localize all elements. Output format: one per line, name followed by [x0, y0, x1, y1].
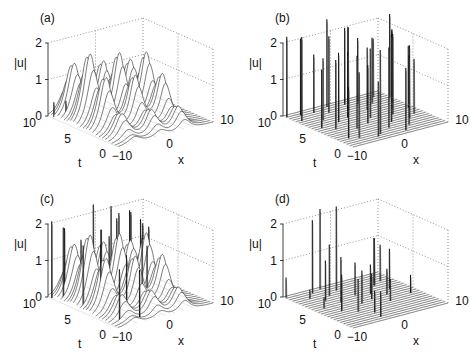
t-tick-label: 10	[23, 116, 37, 130]
t-tick-label: 5	[299, 132, 306, 146]
surface	[48, 52, 213, 147]
panel-label: (b)	[275, 11, 290, 25]
z-axis-label: |u|	[14, 56, 27, 70]
t-axis-label: t	[78, 156, 82, 170]
plot-a: 0121050−10010(a)|u|tx	[0, 0, 235, 181]
t-tick-label: 5	[299, 313, 306, 327]
z-tick-label: 2	[35, 36, 42, 50]
x-tick-label: 10	[220, 294, 234, 308]
panel-b: 0121050−10010(b)|u|tx	[235, 0, 470, 181]
z-tick-label: 0	[270, 109, 277, 123]
x-tick-label: 0	[401, 318, 408, 332]
x-tick-label: −10	[347, 330, 368, 344]
t-tick-label: 5	[64, 313, 71, 327]
t-tick-label: 0	[334, 147, 341, 161]
x-tick-label: −10	[112, 149, 133, 163]
z-tick-label: 0	[35, 109, 42, 123]
x-tick-label: 10	[455, 294, 469, 308]
x-axis-label: x	[413, 153, 419, 167]
panel-label: (d)	[275, 192, 290, 206]
plot-c: 0121050−10010(c)|u|tx	[0, 181, 235, 362]
t-tick-label: 5	[64, 132, 71, 146]
x-tick-label: 0	[166, 318, 173, 332]
x-tick-label: 10	[220, 113, 234, 127]
x-tick-label: −10	[112, 330, 133, 344]
z-tick-label: 1	[35, 73, 42, 87]
t-tick-label: 10	[23, 297, 37, 311]
t-tick-label: 10	[258, 297, 272, 311]
surface	[48, 205, 213, 328]
t-axis-label: t	[78, 337, 82, 351]
grid	[283, 199, 448, 303]
x-axis-label: x	[178, 153, 184, 167]
x-tick-label: 0	[166, 137, 173, 151]
surface	[283, 206, 448, 328]
panel-d: 0121050−10010(d)|u|tx	[235, 181, 470, 362]
z-axis-label: |u|	[14, 237, 27, 251]
z-tick-label: 1	[270, 254, 277, 268]
t-tick-label: 10	[258, 116, 272, 130]
t-tick-label: 0	[99, 328, 106, 342]
z-tick-label: 2	[270, 36, 277, 50]
t-tick-label: 0	[99, 147, 106, 161]
z-tick-label: 2	[35, 217, 42, 231]
z-tick-label: 1	[35, 254, 42, 268]
z-tick-label: 2	[270, 217, 277, 231]
panel-a: 0121050−10010(a)|u|tx	[0, 0, 235, 181]
x-axis-label: x	[178, 334, 184, 348]
z-axis-label: |u|	[249, 56, 262, 70]
panel-c: 0121050−10010(c)|u|tx	[0, 181, 235, 362]
x-tick-label: 0	[401, 137, 408, 151]
plot-b: 0121050−10010(b)|u|tx	[235, 0, 470, 181]
z-axis-label: |u|	[249, 237, 262, 251]
panel-label: (c)	[40, 192, 54, 206]
panel-label: (a)	[40, 11, 55, 25]
x-tick-label: −10	[347, 149, 368, 163]
x-tick-label: 10	[455, 113, 469, 127]
x-axis-label: x	[413, 334, 419, 348]
plot-d: 0121050−10010(d)|u|tx	[235, 181, 470, 362]
z-tick-label: 1	[270, 73, 277, 87]
surface	[283, 14, 448, 147]
t-axis-label: t	[313, 156, 317, 170]
z-tick-label: 0	[270, 290, 277, 304]
grid	[283, 18, 448, 122]
z-tick-label: 0	[35, 290, 42, 304]
figure: 0121050−10010(a)|u|tx 0121050−10010(b)|u…	[0, 0, 470, 362]
t-tick-label: 0	[334, 328, 341, 342]
t-axis-label: t	[313, 337, 317, 351]
